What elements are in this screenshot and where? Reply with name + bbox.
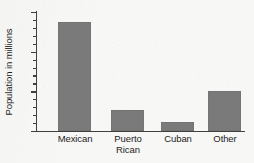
bar-other xyxy=(208,91,241,131)
x-label-cuban-line-1: Cuban xyxy=(151,133,205,144)
x-label-puerto-rican-line-2: Rican xyxy=(101,144,155,155)
y-axis-line xyxy=(36,11,37,132)
x-label-other-line-1: Other xyxy=(198,133,252,144)
y-tick-minor-3 xyxy=(33,107,36,108)
y-tick-major-15 xyxy=(31,12,36,13)
x-label-mexican: Mexican xyxy=(48,133,102,144)
y-tick-minor-13 xyxy=(33,28,36,29)
bar-chart-figure: Population in millions 0 5 10 15 xyxy=(0,0,254,163)
x-label-other: Other xyxy=(198,133,252,144)
y-tick-minor-2 xyxy=(33,115,36,116)
y-tick-minor-7 xyxy=(33,75,36,76)
x-axis-category-labels: Mexican Puerto Rican Cuban Other xyxy=(36,133,246,163)
y-tick-minor-9 xyxy=(33,60,36,61)
y-tick-minor-1 xyxy=(33,123,36,124)
bar-mexican xyxy=(58,22,91,131)
y-tick-minor-8 xyxy=(33,68,36,69)
y-tick-minor-4 xyxy=(33,99,36,100)
y-tick-minor-6 xyxy=(33,83,36,84)
y-axis-title: Population in millions xyxy=(2,7,16,137)
x-label-mexican-line-1: Mexican xyxy=(48,133,102,144)
x-label-puerto-rican: Puerto Rican xyxy=(101,133,155,155)
y-tick-major-0 xyxy=(31,131,36,132)
plot-area xyxy=(36,12,246,131)
y-tick-major-5 xyxy=(31,91,36,92)
bar-cuban xyxy=(161,122,194,131)
y-tick-minor-14 xyxy=(33,20,36,21)
bar-puerto-rican xyxy=(111,110,144,131)
x-label-cuban: Cuban xyxy=(151,133,205,144)
y-tick-minor-11 xyxy=(33,44,36,45)
y-tick-major-10 xyxy=(31,52,36,53)
x-label-puerto-rican-line-1: Puerto xyxy=(101,133,155,144)
y-tick-minor-12 xyxy=(33,36,36,37)
